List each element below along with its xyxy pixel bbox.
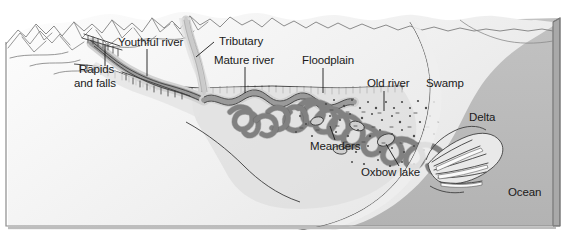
block-side-face [553,18,560,226]
label-rapids-and-falls-line2: and falls [74,77,116,89]
label-youthful-river: Youthful river [118,36,184,48]
label-mature-river: Mature river [214,54,274,66]
label-meanders: Meanders [310,140,361,152]
diagram-canvas: Rapids and falls Youthful river Tributar… [0,0,581,242]
label-oxbow-lake: Oxbow lake [361,166,420,178]
label-swamp: Swamp [426,77,464,89]
label-tributary: Tributary [219,35,263,47]
river-system-diagram: Rapids and falls Youthful river Tributar… [0,0,581,242]
label-ocean: Ocean [508,186,541,198]
label-floodplain: Floodplain [302,54,354,66]
label-rapids-and-falls-line1: Rapids [79,63,115,75]
label-delta: Delta [469,111,496,123]
label-old-river: Old river [367,77,410,89]
